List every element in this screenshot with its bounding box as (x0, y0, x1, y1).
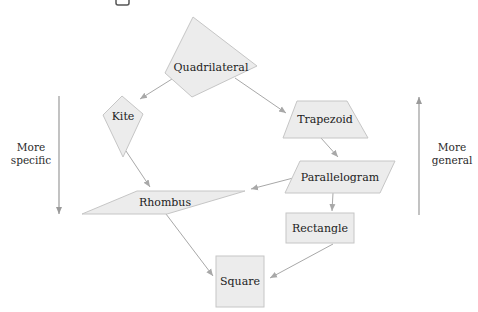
node-trapezoid[interactable]: Trapezoid (283, 101, 368, 138)
edge-parallelogram-rectangle (332, 193, 333, 211)
node-rectangle[interactable]: Rectangle (286, 213, 354, 243)
node-parallelogram[interactable]: Parallelogram (285, 161, 395, 193)
edge-trapezoid-parallelogram (321, 138, 338, 157)
edge-quadrilateral-kite (140, 79, 172, 99)
axis-label-more: More (438, 141, 466, 153)
edge-rectangle-square (270, 244, 333, 278)
edge-quadrilateral-trapezoid (235, 78, 286, 113)
node-label-trapezoid: Trapezoid (297, 113, 353, 126)
node-square[interactable]: Square (216, 256, 264, 307)
cropped-shape-fragment (116, 0, 129, 5)
node-quadrilateral[interactable]: Quadrilateral (165, 17, 257, 97)
node-label-square: Square (220, 275, 260, 288)
axis-label-general: general (432, 154, 473, 166)
quadrilateral-shape (165, 17, 257, 97)
node-label-parallelogram: Parallelogram (301, 171, 380, 184)
edge-kite-rhombus (126, 151, 150, 187)
node-rhombus[interactable]: Rhombus (82, 191, 245, 214)
node-label-kite: Kite (112, 110, 135, 123)
quadrilateral-hierarchy-diagram: Quadrilateral Kite Trapezoid Parallelogr… (0, 0, 478, 312)
axis-label-more: More (17, 141, 45, 153)
axis-more-specific: More specific (11, 96, 59, 214)
node-kite[interactable]: Kite (103, 96, 143, 157)
node-label-rhombus: Rhombus (139, 196, 192, 209)
axis-more-general: More general (419, 97, 473, 215)
node-label-quadrilateral: Quadrilateral (174, 61, 249, 74)
node-label-rectangle: Rectangle (292, 222, 348, 235)
kite-shape (103, 96, 143, 157)
edge-rhombus-square (166, 214, 213, 276)
axis-label-specific: specific (11, 154, 52, 166)
